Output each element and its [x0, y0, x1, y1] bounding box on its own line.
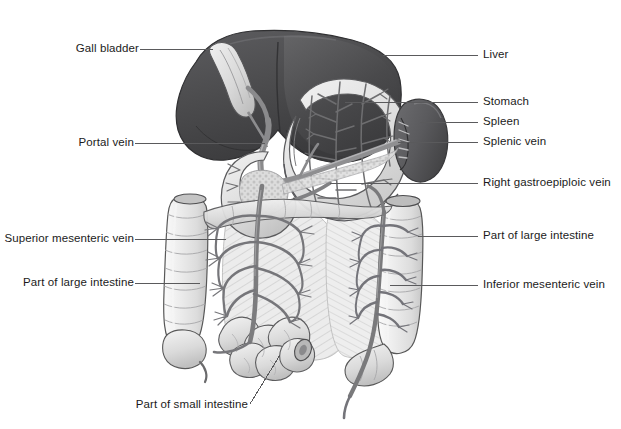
- spleen-organ: [394, 99, 448, 182]
- ascending-colon-cut-end: [174, 194, 206, 204]
- label-right-gastroepiploic-vein: Right gastroepiploic vein: [483, 176, 611, 189]
- descending-colon-cut-end: [386, 196, 420, 207]
- label-part-of-large-intestine-left: Part of large intestine: [23, 276, 134, 289]
- label-splenic-vein: Splenic vein: [483, 135, 546, 148]
- label-gall-bladder: Gall bladder: [76, 42, 139, 55]
- label-superior-mesenteric-vein: Superior mesenteric vein: [4, 232, 134, 245]
- label-part-of-small-intestine: Part of small intestine: [136, 398, 248, 411]
- label-liver: Liver: [483, 48, 508, 61]
- label-portal-vein: Portal vein: [79, 136, 134, 149]
- anatomy-figure: Gall bladderPortal veinSuperior mesenter…: [0, 0, 621, 429]
- label-stomach: Stomach: [483, 95, 529, 108]
- superior-rectal-vein: [344, 396, 350, 418]
- ascending-colon-organ: [163, 194, 208, 382]
- label-part-of-large-intestine-right: Part of large intestine: [483, 229, 594, 242]
- label-spleen: Spleen: [483, 115, 519, 128]
- anatomy-illustration: [0, 0, 621, 429]
- appendix: [200, 362, 206, 382]
- label-inferior-mesenteric-vein: Inferior mesenteric vein: [483, 278, 605, 291]
